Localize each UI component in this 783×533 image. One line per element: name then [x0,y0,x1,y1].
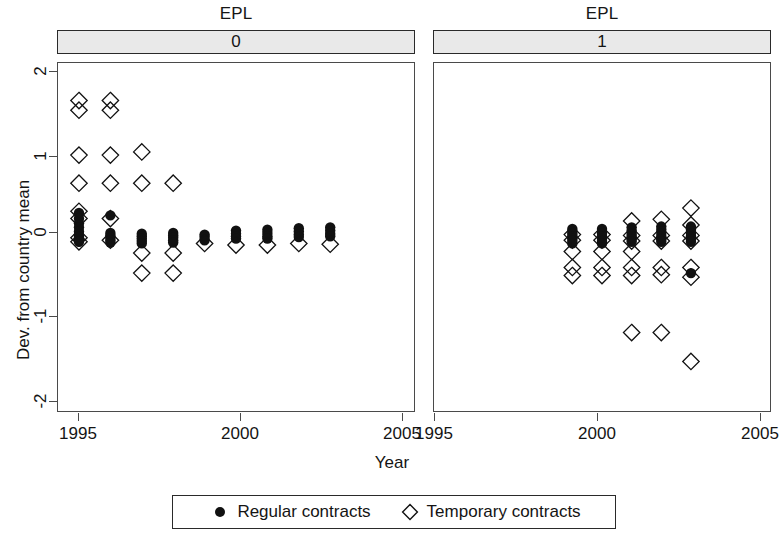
x-tick-mark-p1-1995 [434,413,435,421]
x-tick-label-p0-1995: 1995 [48,424,108,444]
x-axis-title: Year [332,453,452,473]
data-point-temporary [683,200,699,216]
legend-label-regular: Regular contracts [237,502,370,522]
data-point-temporary [623,324,639,340]
x-tick-mark-p1-2005 [760,413,761,421]
legend: Regular contracts Temporary contracts [172,495,616,529]
data-point-temporary [653,324,669,340]
data-point-temporary [653,267,669,283]
scatter-figure: Dev. from country mean 2 1 0 -1 -2 EPL 0… [0,0,783,533]
legend-label-temporary: Temporary contracts [427,502,581,522]
data-point-temporary [653,259,669,275]
legend-entry-temporary: Temporary contracts [397,502,581,522]
data-point-temporary [683,353,699,369]
x-tick-mark-p0-1995 [78,413,79,421]
x-tick-label-p1-2005: 2005 [730,424,783,444]
x-tick-mark-p0-2000 [240,413,241,421]
x-tick-label-p0-2000: 2000 [210,424,270,444]
x-tick-label-p1-1995: 1995 [404,424,464,444]
legend-entry-regular: Regular contracts [207,502,370,522]
filled-circle-icon [207,505,233,519]
x-tick-mark-p0-2005 [402,413,403,421]
x-tick-mark-p1-2000 [597,413,598,421]
open-diamond-icon [397,503,423,521]
x-tick-label-p1-2000: 2000 [567,424,627,444]
